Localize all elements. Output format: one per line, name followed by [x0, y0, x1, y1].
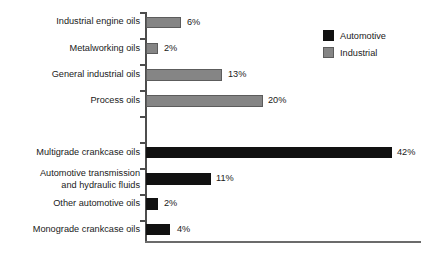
axis-tick	[140, 168, 145, 170]
legend-item-automotive: Automotive	[323, 28, 386, 43]
category-label: Industrial engine oils	[0, 16, 140, 28]
category-label: General industrial oils	[0, 69, 140, 81]
bar-value-label: 11%	[216, 173, 234, 184]
category-label: Multigrade crankcase oils	[0, 147, 140, 159]
bar-value-label: 6%	[187, 17, 200, 28]
axis-tick	[140, 194, 145, 196]
legend-label: Automotive	[340, 31, 386, 41]
bar-other-automotive-oils	[146, 198, 158, 210]
bar-value-label: 42%	[397, 147, 415, 158]
category-label: Process oils	[0, 95, 140, 107]
bar-chart: Industrial engine oils 6% Metalworking o…	[0, 0, 436, 254]
bar-automotive-transmission-fluids	[146, 173, 211, 185]
legend-label: Industrial	[340, 48, 377, 58]
bar-value-label: 20%	[268, 95, 286, 106]
axis-tick	[140, 38, 145, 40]
category-label: Automotive transmission and hydraulic fl…	[0, 168, 140, 191]
legend-swatch-icon	[323, 47, 334, 58]
bar-process-oils	[146, 95, 263, 107]
bar-value-label: 4%	[177, 224, 190, 235]
bar-monograde-crankcase-oils	[146, 224, 170, 235]
bar-value-label: 13%	[228, 69, 246, 80]
bar-value-label: 2%	[164, 198, 177, 209]
bar-industrial-engine-oils	[146, 17, 181, 28]
category-label: Monograde crankcase oils	[0, 224, 140, 236]
axis-tick	[140, 116, 145, 118]
axis-tick	[140, 90, 145, 92]
category-axis-line	[145, 241, 421, 243]
legend-item-industrial: Industrial	[323, 45, 386, 60]
category-label: Metalworking oils	[0, 43, 140, 55]
bar-multigrade-crankcase-oils	[146, 147, 392, 158]
legend-swatch-icon	[323, 30, 334, 41]
bar-value-label: 2%	[164, 43, 177, 54]
category-label: Other automotive oils	[0, 198, 140, 210]
bar-metalworking-oils	[146, 43, 158, 54]
chart-legend: Automotive Industrial	[323, 28, 386, 62]
axis-tick	[140, 64, 145, 66]
bar-general-industrial-oils	[146, 69, 222, 81]
axis-tick	[140, 12, 145, 14]
axis-tick	[140, 142, 145, 144]
axis-tick	[140, 220, 145, 222]
